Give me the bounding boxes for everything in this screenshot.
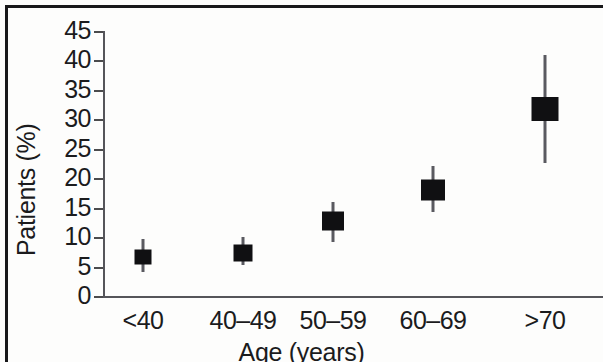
y-tick-label: 5	[45, 254, 91, 279]
y-axis-line	[103, 31, 105, 298]
y-tick-mark	[94, 90, 103, 92]
scanned-figure: Patients (%) 051015202530354045 <4040–49…	[0, 0, 603, 362]
x-tick-label: 40–49	[209, 306, 276, 335]
y-tick-label: 40	[45, 47, 91, 72]
y-tick-mark	[94, 208, 103, 210]
chart-plot-area: Patients (%) 051015202530354045 <4040–49…	[0, 0, 603, 362]
y-tick-mark	[94, 267, 103, 269]
data-point-marker	[135, 250, 152, 265]
data-point-marker	[532, 97, 559, 121]
y-tick-mark	[94, 60, 103, 62]
y-tick-mark	[94, 237, 103, 239]
y-tick-label: 30	[45, 106, 91, 131]
y-tick-label: 0	[45, 283, 91, 308]
y-tick-mark	[94, 178, 103, 180]
y-tick-label: 45	[45, 18, 91, 43]
data-point-marker	[234, 245, 253, 262]
y-tick-label: 25	[45, 136, 91, 161]
y-tick-label: 20	[45, 165, 91, 190]
y-tick-mark	[94, 31, 103, 33]
y-tick-label: 35	[45, 77, 91, 102]
x-tick-label: 60–69	[399, 306, 466, 335]
y-tick-label: 15	[45, 195, 91, 220]
x-tick-label: <40	[123, 306, 164, 335]
x-axis-line	[103, 296, 603, 298]
y-tick-label: 10	[45, 224, 91, 249]
data-point-marker	[421, 180, 445, 201]
y-tick-mark	[94, 296, 103, 298]
data-point-marker	[322, 212, 344, 231]
y-axis-title: Patients (%)	[12, 123, 41, 256]
y-tick-mark	[94, 119, 103, 121]
x-tick-label: >70	[525, 306, 566, 335]
x-axis-title: Age (years)	[0, 338, 603, 362]
y-tick-mark	[94, 149, 103, 151]
x-tick-label: 50–59	[299, 306, 366, 335]
